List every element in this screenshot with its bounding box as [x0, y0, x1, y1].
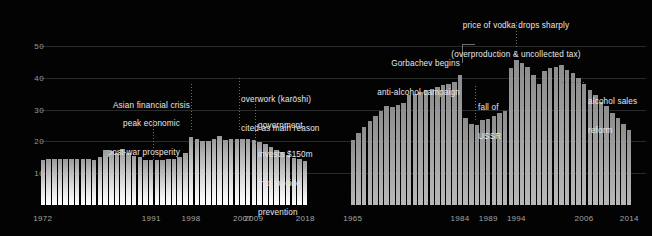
x-axis-tick-1972: 1972	[33, 214, 52, 223]
bar	[195, 139, 200, 205]
bar	[46, 159, 51, 205]
bar	[206, 141, 211, 205]
annotation-fall-of-ussr-line1: fall of	[478, 103, 522, 113]
bar	[356, 133, 360, 205]
x-axis-tick-1989: 1989	[479, 214, 498, 223]
bar	[390, 107, 394, 205]
annotation-gorbachev-line2: anti-alcohol campaign	[354, 88, 460, 98]
leader-line-fall-of-ussr	[475, 86, 476, 120]
bar	[200, 141, 205, 205]
annotation-vodka-price-line2: (overproduction & uncollected tax)	[406, 50, 626, 60]
bar	[368, 121, 372, 205]
x-axis-tick-1998: 1998	[182, 214, 201, 223]
annotation-alcohol-sales-reform: alcohol sales reform	[588, 78, 652, 155]
bar	[542, 71, 546, 205]
bar	[351, 140, 355, 205]
x-axis-tick-2014: 2014	[620, 214, 639, 223]
bar	[571, 73, 575, 205]
bar	[537, 84, 541, 205]
bar	[531, 75, 535, 205]
x-axis-tick-2006: 2006	[575, 214, 594, 223]
leader-line-karoshi	[239, 78, 240, 130]
bar	[379, 111, 383, 205]
annotation-fall-of-ussr-line2: USSR	[478, 132, 522, 142]
bar	[548, 68, 552, 205]
bar	[565, 70, 569, 205]
annotation-fall-of-ussr: fall of USSR	[478, 84, 522, 161]
leader-line-suicide-prevention	[255, 104, 256, 144]
leader-line-vodka-price	[516, 22, 517, 48]
chart-russia-alcohol-deaths: 196519841989199420062014 Gorbachev begin…	[326, 0, 652, 236]
bar	[554, 67, 558, 205]
bar	[384, 106, 388, 205]
bar	[559, 65, 563, 205]
x-axis-tick-1965: 1965	[343, 214, 362, 223]
bar	[396, 105, 400, 205]
infographic-canvas: 5040302010 197219911998200720092018 peak…	[0, 0, 652, 236]
bar	[41, 160, 46, 205]
annotation-asian-financial-crisis-line1: Asian financial crisis	[80, 101, 190, 111]
bar	[229, 139, 234, 205]
bar	[401, 103, 405, 205]
bar	[235, 139, 240, 205]
annotation-peak-economic-line2: post-war prosperity	[60, 148, 180, 158]
bar	[52, 159, 57, 205]
annotation-alcohol-sales-reform-line2: reform	[588, 126, 652, 136]
bar	[217, 136, 222, 205]
x-axis-tick-1994: 1994	[507, 214, 526, 223]
bar	[362, 127, 366, 205]
annotation-alcohol-sales-reform-line1: alcohol sales	[588, 97, 652, 107]
bar	[189, 137, 194, 205]
x-axis-tick-1991: 1991	[142, 214, 161, 223]
bar	[525, 67, 529, 205]
bar	[463, 118, 467, 206]
x-axis-tick-1984: 1984	[450, 214, 469, 223]
annotation-asian-financial-crisis: Asian financial crisis	[80, 82, 190, 130]
bar	[576, 78, 580, 205]
chart-japan-suicide-rate: 197219911998200720092018 peak economic p…	[0, 0, 326, 236]
bar	[212, 139, 217, 205]
x-axis-right: 196519841989199420062014	[350, 205, 632, 236]
leader-line-asian-financial-crisis	[191, 84, 192, 132]
leader-line-alcohol-sales-reform	[562, 82, 586, 83]
bar	[373, 116, 377, 205]
bar	[469, 124, 473, 205]
bar	[582, 84, 586, 205]
bar	[223, 140, 228, 205]
bar	[183, 153, 188, 205]
